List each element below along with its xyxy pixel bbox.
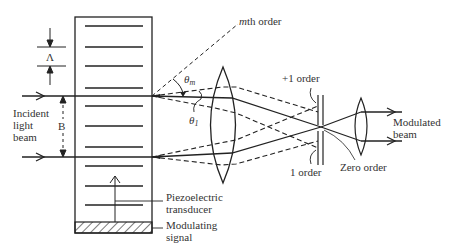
mth-order-label: mth order — [239, 15, 282, 27]
theta-m-arc — [173, 79, 183, 94]
piezo-label-1: Piezoelectric — [166, 191, 223, 203]
spatial-filter-slit — [318, 95, 323, 165]
incident-label-2: light — [13, 119, 33, 131]
zero-order-rays — [152, 96, 402, 157]
collimating-lens — [355, 98, 367, 155]
acoustic-direction-arrow — [110, 176, 120, 222]
transducer-hatch — [75, 222, 152, 233]
modulated-beam-label-2: beam — [393, 128, 417, 140]
theta-1-label: θ1 — [189, 114, 198, 128]
minus1-order-label: 1 order — [290, 166, 322, 178]
incident-label-3: beam — [13, 131, 37, 143]
minus1-leader — [310, 150, 316, 164]
signal-label-1: Modulating — [166, 219, 218, 231]
plus1-order-label: +1 order — [282, 72, 320, 84]
incident-label-1: Incident — [13, 107, 49, 119]
b-label: B — [58, 120, 65, 132]
lambda-label: Λ — [46, 51, 54, 63]
acousto-optic-diagram: Λ B Incident light beam mth order θm θ1 — [0, 0, 459, 252]
plus1-leader — [310, 88, 316, 103]
modulated-beam-label-1: Modulated — [393, 116, 441, 128]
theta-m-label: θm — [184, 73, 195, 87]
focusing-lens — [211, 67, 236, 183]
piezo-label-2: transducer — [166, 203, 212, 215]
zero-leader — [324, 130, 355, 160]
signal-label-2: signal — [166, 231, 192, 243]
zero-order-label: Zero order — [340, 161, 387, 173]
